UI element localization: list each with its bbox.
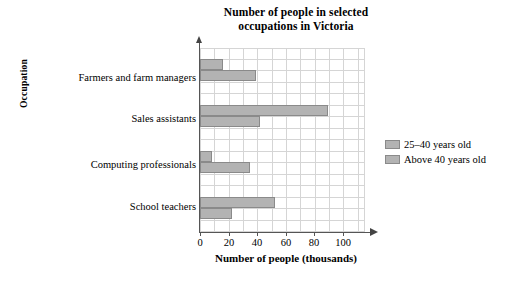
x-axis-tick-label: 80 — [299, 237, 329, 248]
x-axis-title: Number of people (thousands) — [200, 252, 372, 264]
x-axis-tick — [229, 232, 230, 236]
bar-farmers-25-40 — [200, 59, 223, 70]
legend-item-above-40: Above 40 years old — [385, 152, 486, 167]
bar-teachers-above-40 — [200, 208, 232, 219]
bar-computing-25-40 — [200, 151, 212, 162]
gridline-horizontal — [200, 59, 365, 60]
y-axis-label-sales: Sales assistants — [16, 113, 196, 124]
legend-label-above-40: Above 40 years old — [404, 154, 486, 165]
legend-swatch-25-40 — [385, 140, 400, 149]
legend-item-25-40: 25–40 years old — [385, 137, 486, 152]
bar-farmers-above-40 — [200, 70, 256, 81]
gridline-horizontal — [200, 139, 365, 140]
y-axis-category-labels: Farmers and farm managers Sales assistan… — [10, 0, 196, 282]
gridline-vertical — [329, 48, 330, 232]
gridline-horizontal — [200, 48, 365, 49]
bar-teachers-25-40 — [200, 197, 275, 208]
bar-sales-25-40 — [200, 105, 328, 116]
gridline-vertical — [286, 48, 287, 232]
gridline-vertical — [358, 48, 359, 232]
x-axis-tick — [343, 232, 344, 236]
y-axis-title: Occupation — [19, 59, 29, 108]
gridline-vertical — [315, 48, 316, 232]
legend-label-25-40: 25–40 years old — [404, 139, 471, 150]
gridline-horizontal — [200, 185, 365, 186]
x-axis-tick — [257, 232, 258, 236]
gridline-horizontal — [200, 82, 365, 83]
gridline-horizontal — [200, 93, 365, 94]
x-axis-tick — [286, 232, 287, 236]
bar-chart-figure: Number of people in selected occupations… — [0, 0, 511, 282]
gridline-horizontal — [200, 220, 365, 221]
y-axis-label-teachers: School teachers — [16, 201, 196, 212]
chart-title-line-2: occupations in Victoria — [196, 20, 396, 34]
y-axis-label-computing: Computing professionals — [16, 159, 196, 170]
plot-area — [200, 48, 365, 232]
y-axis-line — [199, 42, 200, 233]
gridline-horizontal — [200, 151, 365, 152]
gridline-vertical — [343, 48, 344, 232]
x-axis-tick-label: 40 — [242, 237, 272, 248]
gridline-horizontal — [200, 128, 365, 129]
bar-computing-above-40 — [200, 162, 250, 173]
x-axis-tick-label: 20 — [214, 237, 244, 248]
x-axis-tick-label: 60 — [271, 237, 301, 248]
chart-legend: 25–40 years old Above 40 years old — [385, 137, 486, 167]
x-axis-tick-label: 100 — [328, 237, 358, 248]
bar-sales-above-40 — [200, 116, 260, 127]
x-axis-tick — [314, 232, 315, 236]
gridline-horizontal — [200, 174, 365, 175]
y-axis-arrow-icon — [196, 36, 202, 43]
legend-swatch-above-40 — [385, 155, 400, 164]
y-axis-label-farmers: Farmers and farm managers — [16, 72, 196, 83]
chart-title: Number of people in selected occupations… — [196, 6, 396, 33]
chart-title-line-1: Number of people in selected — [196, 6, 396, 20]
x-axis-tick — [200, 232, 201, 236]
x-axis-arrow-icon — [370, 228, 378, 236]
gridline-vertical — [364, 48, 365, 232]
gridline-vertical — [300, 48, 301, 232]
